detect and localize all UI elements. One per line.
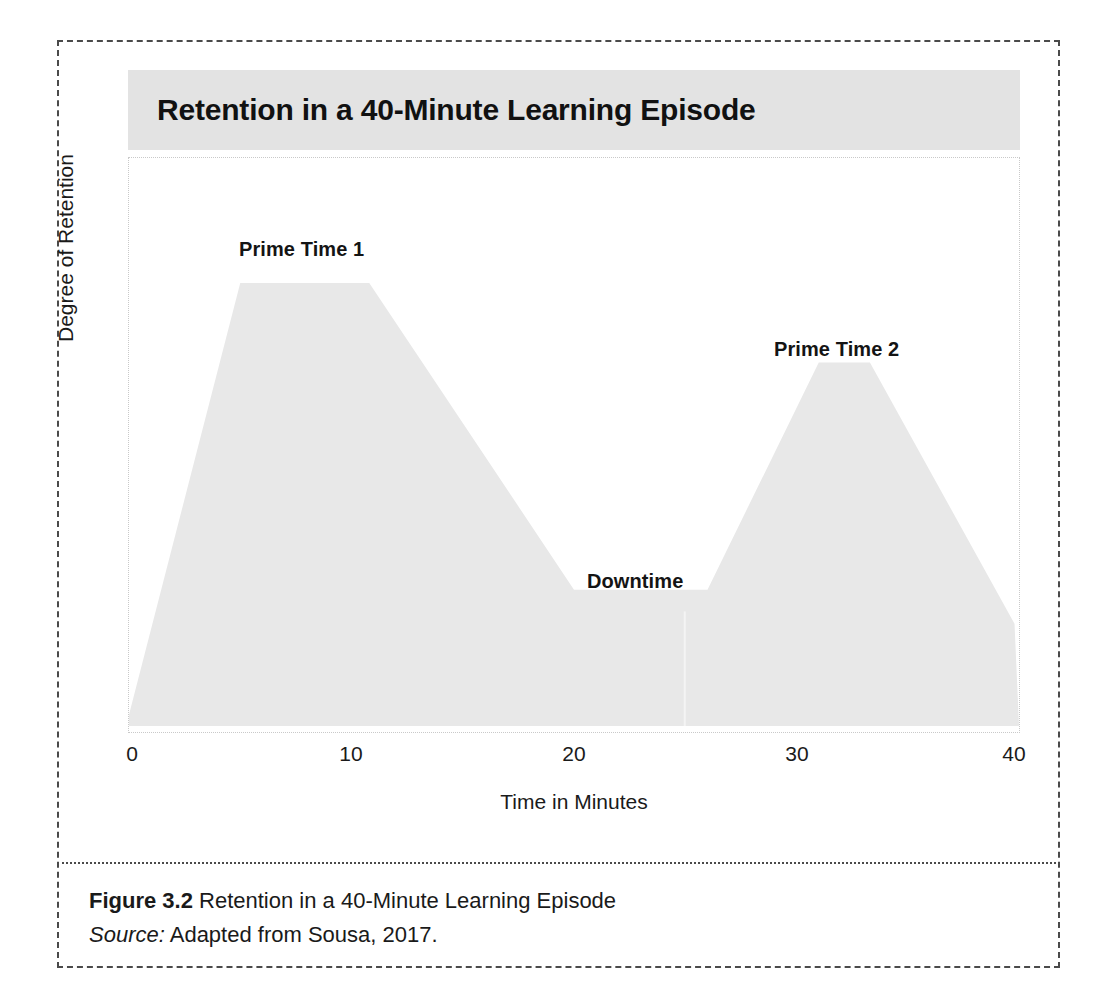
figure-caption: Figure 3.2 Retention in a 40-Minute Lear… [89,884,1019,952]
caption-figure-number: Figure 3.2 [89,888,193,913]
y-axis-label: Degree of Retention [54,82,78,342]
figure-frame: Retention in a 40-Minute Learning Episod… [57,40,1060,968]
x-tick-label-30: 30 [785,742,808,766]
chart-region: Retention in a 40-Minute Learning Episod… [59,42,1058,864]
x-axis-tick-row: 010203040 [128,742,1020,776]
caption-source-word: Source: [89,922,165,947]
label-prime-time-2: Prime Time 2 [774,338,899,361]
x-tick-label-40: 40 [1002,742,1025,766]
x-axis-label: Time in Minutes [128,790,1020,814]
label-prime-time-1: Prime Time 1 [239,238,364,261]
caption-line-source: Source: Adapted from Sousa, 2017. [89,918,1019,952]
chart-title: Retention in a 40-Minute Learning Episod… [128,93,756,127]
caption-source-text: Adapted from Sousa, 2017. [165,922,438,947]
caption-figure-title: Retention in a 40-Minute Learning Episod… [193,888,616,913]
x-tick-label-20: 20 [562,742,585,766]
x-tick-label-0: 0 [126,742,138,766]
caption-divider [57,862,1060,864]
label-downtime: Downtime [587,570,683,593]
caption-line-title: Figure 3.2 Retention in a 40-Minute Lear… [89,884,1019,918]
chart-title-band: Retention in a 40-Minute Learning Episod… [128,70,1020,150]
x-tick-label-10: 10 [339,742,362,766]
plot-area: Prime Time 1 Prime Time 2 Downtime [128,157,1020,733]
